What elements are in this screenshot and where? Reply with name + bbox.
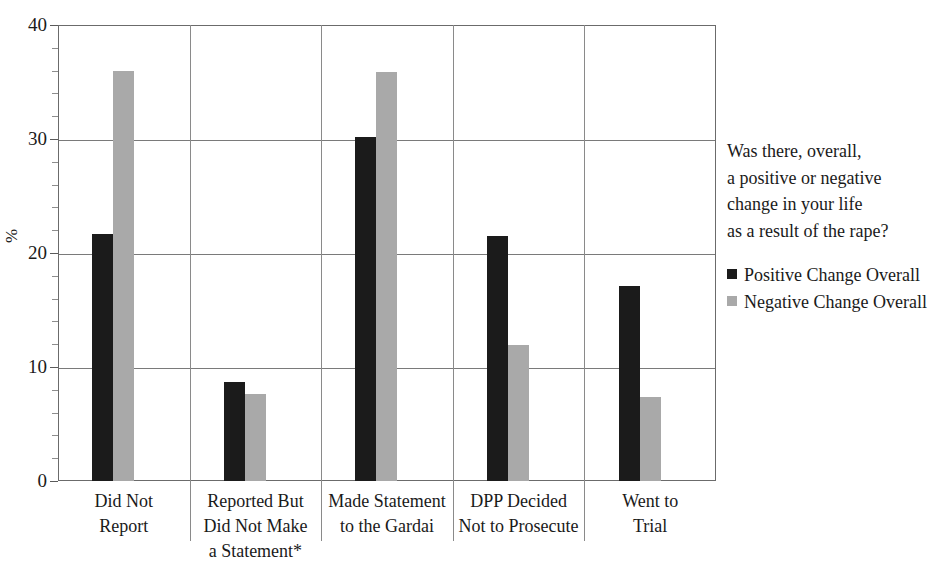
category-divider [584,25,585,541]
y-axis-major-tick [50,25,58,26]
category-label-line: a Statement* [190,539,322,564]
y-axis-minor-tick [52,321,58,322]
legend-swatch-icon [727,296,737,306]
y-axis-minor-tick [52,413,58,414]
category-label-line: Not to Prosecute [453,514,585,539]
category-label-line: Made Statement [321,489,453,514]
y-axis-minor-tick [52,344,58,345]
bar-group [92,25,134,481]
x-axis-category-label: Reported ButDid Not Makea Statement* [190,489,322,564]
y-axis: 010203040 [0,0,47,577]
category-label-line: DPP Decided [453,489,585,514]
bar-chart: 010203040 % Did NotReportReported ButDid… [0,0,944,577]
x-axis-category-label: Did NotReport [58,489,190,539]
bar-positive-change [92,234,113,481]
category-label-line: Went to [584,489,716,514]
y-axis-minor-tick [52,299,58,300]
category-divider [190,25,191,541]
category-label-line: Did Not [58,489,190,514]
y-axis-minor-tick [52,48,58,49]
legend: Was there, overall,a positive or negativ… [727,138,942,318]
legend-title-line: a positive or negative [727,165,942,192]
category-divider [453,25,454,541]
y-axis-minor-tick [52,185,58,186]
x-axis-category-label: Went toTrial [584,489,716,539]
y-axis-minor-tick [52,93,58,94]
y-axis-minor-tick [52,435,58,436]
bar-negative-change [376,72,397,481]
legend-label: Negative Change Overall [744,291,927,314]
bar-group [224,25,266,481]
y-axis-tick-label: 30 [9,129,47,148]
bar-negative-change [245,394,266,481]
y-axis-tick-label: 40 [9,15,47,34]
y-axis-title: % [2,229,22,243]
bar-group [619,25,661,481]
category-divider [321,25,322,541]
legend-label: Positive Change Overall [744,264,920,287]
y-axis-minor-tick [52,207,58,208]
y-axis-minor-tick [52,390,58,391]
category-label-line: Report [58,514,190,539]
y-axis-minor-tick [52,230,58,231]
x-axis-category-label: DPP DecidedNot to Prosecute [453,489,585,539]
y-axis-major-tick [50,481,58,482]
y-axis-tick-label: 20 [9,243,47,262]
y-axis-major-tick [50,139,58,140]
y-axis-minor-tick [52,458,58,459]
legend-title-line: change in your life [727,191,942,218]
y-axis-minor-tick [52,116,58,117]
y-axis-minor-tick [52,71,58,72]
y-axis-tick-label: 10 [9,357,47,376]
y-axis-major-tick [50,367,58,368]
category-label-line: Reported But [190,489,322,514]
bar-negative-change [113,71,134,481]
legend-items: Positive Change OverallNegative Change O… [727,264,942,318]
category-label-line: Trial [584,514,716,539]
legend-item[interactable]: Positive Change Overall [727,264,942,291]
bar-positive-change [487,236,508,481]
legend-title-line: as a result of the rape? [727,218,942,245]
category-label-line: Did Not Make [190,514,322,539]
x-axis-category-labels: Did NotReportReported ButDid Not Makea S… [58,489,716,577]
y-axis-minor-tick [52,162,58,163]
legend-title-line: Was there, overall, [727,138,942,165]
bar-positive-change [224,382,245,481]
bar-positive-change [619,286,640,481]
y-axis-minor-tick [52,276,58,277]
bar-negative-change [508,345,529,481]
legend-title: Was there, overall,a positive or negativ… [727,138,942,244]
bar-group [355,25,397,481]
bar-positive-change [355,137,376,481]
legend-item[interactable]: Negative Change Overall [727,291,942,318]
legend-swatch-icon [727,269,737,279]
y-axis-major-tick [50,253,58,254]
y-axis-tick-label: 0 [9,471,47,490]
bar-negative-change [640,397,661,481]
bar-group [487,25,529,481]
category-label-line: to the Gardai [321,514,453,539]
x-axis-category-label: Made Statementto the Gardai [321,489,453,539]
